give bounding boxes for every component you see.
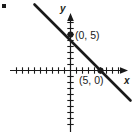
point-label-y-intercept: (0, 5) — [75, 30, 100, 41]
graph-figure: y x (0, 5) (5, 0) — [0, 0, 138, 136]
plotted-line — [35, 5, 131, 101]
y-axis-arrowhead — [67, 13, 74, 21]
y-axis-label: y — [60, 4, 66, 14]
point-label-x-intercept: (5, 0) — [79, 75, 104, 86]
x-axis-label: x — [124, 76, 130, 86]
point-marker-x-intercept — [97, 67, 103, 73]
coordinate-plane — [0, 0, 138, 136]
point-marker-y-intercept — [67, 31, 73, 37]
x-axis-arrowhead — [120, 67, 128, 74]
